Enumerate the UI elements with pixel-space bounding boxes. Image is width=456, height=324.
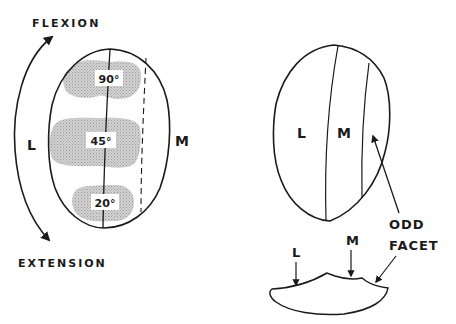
facet-patella-outline — [273, 45, 389, 221]
odd-facet-label-line2: FACET — [389, 238, 439, 253]
cross-section-odd-facet-arrow — [376, 256, 396, 282]
cross-section-medial-label: M — [346, 233, 359, 248]
patella-cross-section — [270, 273, 388, 315]
lateral-facet-label: L — [297, 125, 306, 141]
extension-label: EXTENSION — [18, 257, 107, 270]
odd-facet-ridge-line — [362, 63, 369, 198]
patella-diagram: 90° 45° 20° FLEXION EXTENSION L M L M OD… — [0, 0, 456, 324]
angle-label-20: 20° — [95, 197, 116, 210]
medial-label-left: M — [175, 133, 189, 149]
medial-facet-label: M — [337, 125, 351, 141]
odd-facet-label-line1: ODD — [389, 217, 425, 232]
lateral-label-left: L — [27, 137, 36, 153]
left-patella-view: 90° 45° 20° FLEXION EXTENSION L M — [14, 17, 188, 270]
angle-label-90: 90° — [99, 73, 120, 86]
cross-section-lateral-label: L — [292, 245, 300, 260]
right-patella-view: L M ODD FACET L M — [270, 45, 439, 315]
flexion-label: FLEXION — [32, 17, 101, 30]
odd-facet-dashed-line — [141, 58, 146, 212]
angle-label-45: 45° — [91, 135, 112, 148]
